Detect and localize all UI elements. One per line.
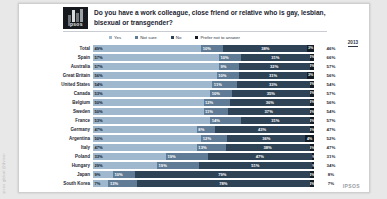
prev-year-value: 56% [314, 73, 348, 78]
bar-segment-no: 78% [137, 180, 309, 187]
bar-segment-yes: 29% [93, 162, 157, 169]
stacked-bar: 47%13%38%2% [93, 144, 314, 151]
edge-watermark: ipsos global @dvisor [1, 128, 11, 194]
prev-year-value: 57% [314, 64, 348, 69]
bar-segment-no: 43% [215, 126, 310, 133]
bar-segment-prefer: 2% [310, 63, 314, 70]
prev-year-value: 57% [314, 118, 348, 123]
chart-row: Total49%10%38%3%46% [19, 44, 370, 53]
stacked-bar: 50%12%36%4% [93, 135, 314, 142]
stacked-bar: 57%10%31%2% [93, 54, 314, 61]
country-label: Hungary [19, 163, 93, 168]
bar-segment-notsure: 13% [197, 144, 226, 151]
bar-segment-prefer: 2% [310, 180, 314, 187]
bar-segment-prefer: 3% [307, 45, 314, 52]
bar-segment-yes: 9% [93, 171, 113, 178]
legend-swatch-icon [171, 36, 174, 39]
ipsos-logo: Ipsos [63, 7, 88, 29]
bar-segment-no: 31% [241, 54, 310, 61]
chart-row: Australia57%9%32%2%57% [19, 62, 370, 71]
legend-label: Yes [114, 35, 121, 40]
chart-legend: YesNot sureNoPrefer not to answer [109, 35, 240, 40]
country-label: United States [19, 82, 93, 87]
bar-segment-no: 33% [237, 81, 310, 88]
chart-row: South Korea7%13%78%2%7% [19, 179, 370, 188]
bar-segment-notsure: 10% [217, 72, 239, 79]
country-label: South Korea [19, 181, 93, 186]
country-label: Italy [19, 145, 93, 150]
country-label: Germany [19, 127, 93, 132]
bar-segment-no: 37% [228, 108, 310, 115]
country-label: Sweden [19, 109, 93, 114]
country-label: Japan [19, 172, 93, 177]
bar-segment-no: 51% [199, 162, 312, 169]
chart-row: Argentina50%12%36%4%52% [19, 134, 370, 143]
stacked-bar: 53%10%35%2% [93, 90, 314, 97]
bar-segment-notsure: 14% [210, 117, 241, 124]
bar-segment-notsure: 19% [157, 162, 199, 169]
bar-segment-prefer: 2% [310, 117, 314, 124]
stacked-bar: 29%19%51%1% [93, 162, 314, 169]
legend-label: Not sure [140, 35, 157, 40]
chart-row: Italy47%13%38%2%47% [19, 143, 370, 152]
chart-row: France53%14%31%2%57% [19, 116, 370, 125]
bar-segment-prefer: 2% [310, 99, 314, 106]
bar-segment-no: 36% [230, 99, 310, 106]
country-label: Canada [19, 91, 93, 96]
prev-year-value: 56% [314, 100, 348, 105]
legend-swatch-icon [109, 36, 112, 39]
legend-item-yes: Yes [109, 35, 121, 40]
stacked-bar: 57%9%32%2% [93, 63, 314, 70]
bar-segment-yes: 49% [93, 45, 201, 52]
bar-segment-no: 32% [239, 63, 310, 70]
stacked-bar: 9%10%79%2% [93, 171, 314, 178]
stacked-bar: 7%13%78%2% [93, 180, 314, 187]
bar-segment-yes: 47% [93, 144, 197, 151]
logo-bars-icon [63, 7, 88, 22]
country-label: France [19, 118, 93, 123]
screenshot-root: ipsos global @dvisor Ipsos Do you have a… [0, 0, 387, 199]
country-label: Argentina [19, 136, 93, 141]
prev-year-value: 46% [314, 46, 348, 51]
bar-segment-yes: 57% [93, 54, 219, 61]
chart-rows: Total49%10%38%3%46%Spain57%10%31%2%66%Au… [19, 44, 370, 188]
bar-segment-no: 31% [241, 117, 310, 124]
bar-segment-yes: 33% [93, 153, 166, 160]
bar-segment-prefer: 2% [310, 108, 314, 115]
bar-segment-notsure: 11% [212, 81, 236, 88]
legend-swatch-icon [135, 36, 138, 39]
chart-row: Sweden50%11%37%2%54% [19, 107, 370, 116]
stacked-bar: 53%14%31%2% [93, 117, 314, 124]
bar-segment-yes: 54% [93, 81, 212, 88]
bar-segment-prefer: 2% [310, 171, 314, 178]
bar-segment-notsure: 12% [201, 135, 227, 142]
bar-segment-no: 38% [223, 45, 307, 52]
prev-year-value: 57% [314, 91, 348, 96]
bar-segment-notsure: 12% [204, 99, 231, 106]
legend-label: No [176, 35, 182, 40]
stacked-bar: 49%10%38%3% [93, 45, 314, 52]
bar-segment-prefer: 2% [310, 90, 314, 97]
chart-row: Japan9%10%79%2%8% [19, 170, 370, 179]
prev-year-value: 54% [314, 82, 348, 87]
bar-segment-yes: 50% [93, 99, 204, 106]
legend-item-not-sure: Not sure [135, 35, 157, 40]
chart-row: Spain57%10%31%2%66% [19, 53, 370, 62]
bar-segment-notsure: 10% [219, 54, 241, 61]
chart-row: Belgium50%12%36%2%56% [19, 98, 370, 107]
chart-row: Hungary29%19%51%1%34% [19, 161, 370, 170]
bar-segment-yes: 56% [93, 72, 217, 79]
prev-year-value: 8% [314, 172, 348, 177]
bar-segment-notsure: 10% [201, 45, 223, 52]
bar-segment-prefer: 1% [312, 162, 314, 169]
bar-segment-notsure: 8% [197, 126, 215, 133]
legend-swatch-icon [195, 36, 198, 39]
bar-segment-yes: 7% [93, 180, 108, 187]
bar-segment-notsure: 13% [108, 180, 137, 187]
bar-segment-prefer: 1% [312, 153, 314, 160]
bar-segment-prefer: 2% [310, 144, 314, 151]
prev-year-value: 47% [314, 145, 348, 150]
bar-segment-no: 35% [232, 90, 309, 97]
bar-segment-prefer: 2% [310, 81, 314, 88]
prev-year-value: 34% [314, 163, 348, 168]
